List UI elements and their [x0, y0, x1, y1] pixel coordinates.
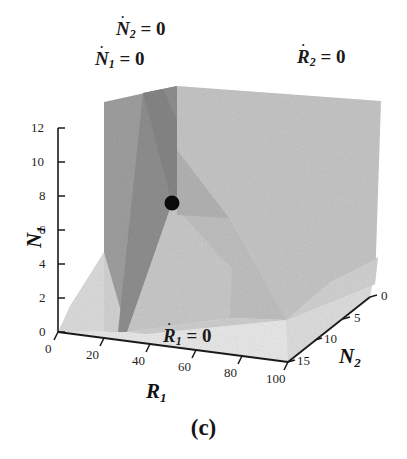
ztick-10: 10	[324, 331, 337, 347]
label-r1dot-nullcline: ˙R1 = 0	[163, 325, 212, 349]
surface-plot-canvas	[0, 0, 407, 459]
label-r2dot-nullcline: ˙R2 = 0	[297, 46, 346, 70]
ytick-2: 2	[39, 290, 46, 306]
overdot-icon: ˙	[99, 44, 103, 57]
xtick-60: 60	[178, 359, 191, 375]
equilibrium-point-marker	[165, 196, 180, 211]
ytick-4: 4	[39, 256, 46, 272]
axis-label-n1: N1	[22, 226, 49, 248]
ztick-5: 5	[354, 310, 361, 326]
label-n2dot-nullcline: ˙N2 = 0	[116, 18, 166, 42]
xtick-100: 100	[266, 371, 286, 387]
ztick-0: 0	[381, 288, 388, 304]
figure-caption: (c)	[0, 415, 407, 441]
figure-panel: ˙N2 = 0 ˙N1 = 0 ˙R2 = 0 ˙R1 = 0 12 10 8 …	[0, 0, 407, 459]
xtick-20: 20	[86, 347, 99, 363]
xtick-0: 0	[45, 341, 52, 357]
overdot-icon: ˙	[301, 42, 305, 55]
axis-n1-ticks	[58, 128, 65, 332]
overdot-icon: ˙	[167, 321, 171, 334]
overdot-icon: ˙	[120, 14, 124, 27]
xtick-40: 40	[132, 353, 145, 369]
label-n1dot-nullcline: ˙N1 = 0	[95, 48, 145, 72]
ztick-15: 15	[297, 353, 310, 369]
ytick-12: 12	[31, 120, 44, 136]
xtick-80: 80	[224, 365, 237, 381]
ytick-0: 0	[39, 324, 46, 340]
axis-label-n2: N2	[339, 344, 361, 371]
ytick-8: 8	[39, 188, 46, 204]
axis-label-r1: R1	[146, 379, 167, 406]
ytick-10: 10	[31, 154, 44, 170]
